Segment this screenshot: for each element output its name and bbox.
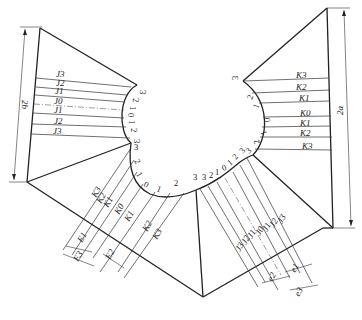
svg-text:K1: K1 — [122, 209, 136, 224]
svg-text:K3: K3 — [150, 226, 165, 241]
svg-text:1: 1 — [250, 102, 261, 109]
svg-text:2: 2 — [131, 98, 141, 102]
svg-text:0: 0 — [126, 113, 136, 117]
svg-text:1: 1 — [128, 106, 138, 110]
svg-text:K0: K0 — [299, 108, 311, 118]
svg-text:K2: K2 — [299, 128, 311, 138]
e-spacing-labels: e1 e2 e3 — [265, 262, 305, 298]
svg-text:e1: e1 — [288, 262, 301, 274]
svg-text:3: 3 — [230, 76, 240, 80]
svg-text:e2: e2 — [265, 270, 278, 283]
bottom-right-j-labels: J3 J2 J1 J0 J1 J2 J3 — [233, 212, 288, 253]
left-j-labels: J3 J2 J1 J0 J1 J2 J3 — [53, 69, 65, 136]
svg-text:E2: E2 — [103, 247, 117, 262]
svg-text:2: 2 — [230, 152, 240, 162]
svg-text:K1: K1 — [299, 118, 311, 128]
svg-text:2: 2 — [244, 93, 255, 100]
svg-text:J1: J1 — [55, 86, 64, 96]
label-2a: 2a — [335, 106, 345, 116]
right-generator-lines — [243, 78, 332, 150]
svg-text:3: 3 — [134, 142, 138, 152]
svg-text:3: 3 — [202, 172, 206, 182]
svg-text:1: 1 — [155, 183, 162, 194]
svg-text:J3: J3 — [53, 126, 62, 136]
svg-text:K1: K1 — [298, 93, 310, 103]
svg-text:0: 0 — [142, 179, 151, 190]
svg-text:K3: K3 — [301, 141, 313, 151]
svg-text:J2: J2 — [54, 116, 63, 126]
svg-text:K3: K3 — [295, 70, 307, 80]
right-k-labels: K3 K2 K1 K0 K1 K2 K3 — [295, 70, 313, 151]
svg-text:e3: e3 — [292, 285, 305, 298]
svg-text:2: 2 — [132, 157, 143, 166]
label-2b: 2b — [20, 100, 30, 110]
svg-text:2: 2 — [209, 170, 213, 180]
left-profile-numbers: 3 2 1 0 1 2 3 — [126, 90, 148, 143]
svg-text:K2: K2 — [295, 82, 307, 92]
svg-text:2: 2 — [129, 128, 139, 132]
svg-text:0: 0 — [262, 118, 272, 122]
svg-text:0: 0 — [220, 162, 227, 173]
bottom-left-profile-numbers: 3 2 1 0 1 2 3 — [132, 142, 197, 194]
svg-text:1: 1 — [127, 120, 137, 124]
svg-text:3: 3 — [193, 172, 197, 182]
development-diagram: 2b 2a J3 J2 J1 J0 J1 J2 J3 3 2 1 0 1 2 3… — [0, 0, 362, 320]
svg-text:J1: J1 — [54, 105, 63, 115]
bottom-right-profile-numbers: 3 2 1 0 1 2 3 — [202, 146, 247, 182]
svg-text:1: 1 — [134, 170, 145, 179]
left-generator-lines — [31, 78, 131, 138]
svg-text:2: 2 — [174, 178, 178, 188]
dimension-2a — [327, 8, 355, 228]
svg-text:1: 1 — [215, 167, 219, 177]
svg-text:3: 3 — [138, 90, 148, 94]
